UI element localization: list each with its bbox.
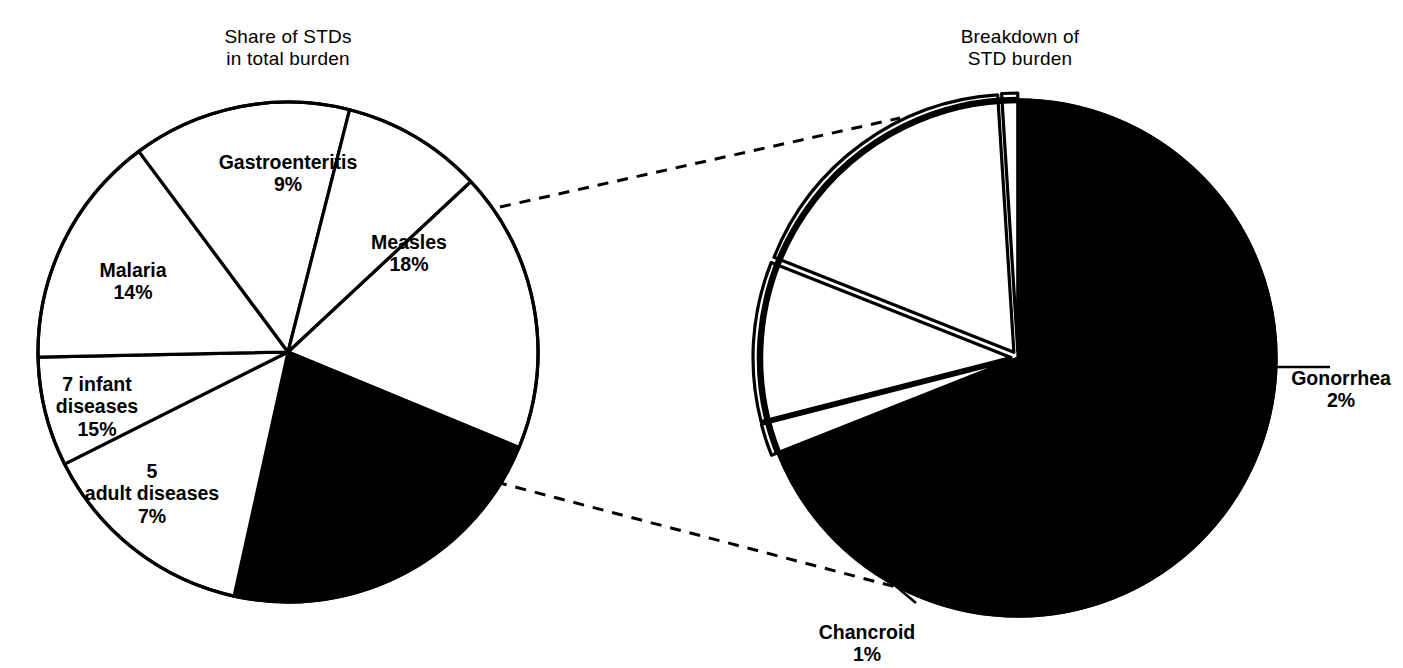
label-chancroid-pct: 1% [806,643,928,666]
label-measles-name: Measles [371,231,447,253]
label-syphilis-pct: 18% [1002,517,1122,540]
label-chlamydia-pct: 10% [1120,445,1260,468]
label-other-diseases-name: Other diseases [300,460,382,505]
label-chlamydia-name: Chlamydia [1141,423,1240,445]
charts-svg [0,0,1403,668]
label-5-adult-diseases-pct: 7% [52,505,252,528]
label-gastroenteritis-name: Gastroenteritis [219,151,358,173]
label-measles-pct: 18% [344,253,474,276]
label-hiv-and-stds: HIV & STDs 22% [330,328,520,418]
label-gastroenteritis: Gastroenteritis 9% [188,128,388,218]
pie-chart-figure: Share of STDs in total burden Breakdown … [0,0,1403,668]
label-5-adult-diseases-name: 5 adult diseases [85,460,219,505]
label-7-infant-diseases: 7 infant diseases 15% [22,350,172,463]
label-gonorrhea-name: Gonorrhea [1291,367,1391,389]
label-hiv-pct: 69% [930,298,1050,321]
label-chlamydia: Chlamydia 10% [1120,400,1260,490]
label-malaria-name: Malaria [99,259,166,281]
label-chancroid-name: Chancroid [819,621,915,643]
label-other-diseases-pct: 14% [268,505,414,528]
right-chart-title: Breakdown of STD burden [875,26,1165,70]
left-chart-title: Share of STDs in total burden [143,26,433,70]
label-hiv: HIV 69% [930,253,1050,343]
label-malaria: Malaria 14% [68,236,198,326]
label-chancroid: Chancroid 1% [806,598,928,668]
label-other-diseases: Other diseases 14% [268,437,414,550]
label-7-infant-diseases-name: 7 infant diseases [56,373,138,418]
label-syphilis-name: Syphilis [1025,495,1100,517]
label-gonorrhea: Gonorrhea 2% [1280,344,1402,434]
label-measles: Measles 18% [344,208,474,298]
label-hiv-name: HIV [974,276,1007,298]
label-hiv-and-stds-name: HIV & STDs [371,351,478,373]
label-hiv-and-stds-pct: 22% [330,373,520,396]
label-gonorrhea-pct: 2% [1280,389,1402,412]
label-malaria-pct: 14% [68,281,198,304]
label-syphilis: Syphilis 18% [1002,472,1122,562]
label-7-infant-diseases-pct: 15% [22,418,172,441]
label-gastroenteritis-pct: 9% [188,173,388,196]
